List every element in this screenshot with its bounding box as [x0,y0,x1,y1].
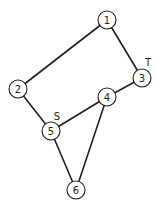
node-label: 2 [15,84,21,95]
edge-5-6 [51,131,76,190]
graph-diagram: 1 2 3 4 5 6 T S [0,0,158,210]
node-label: 1 [104,15,110,26]
node-1: 1 [98,11,116,29]
node-label: 3 [139,73,145,84]
node-5: 5 [42,122,60,140]
target-tag: T [144,57,152,68]
node-3: 3 [133,69,151,87]
edge-4-6 [76,97,107,190]
node-2: 2 [9,80,27,98]
source-tag: S [54,111,60,122]
edges [18,20,142,190]
node-label: 6 [73,185,79,196]
edge-1-2 [18,20,107,89]
edge-1-3 [107,20,142,78]
node-label: 4 [104,92,110,103]
node-label: 5 [48,126,54,137]
node-6: 6 [67,181,85,199]
node-4: 4 [98,88,116,106]
